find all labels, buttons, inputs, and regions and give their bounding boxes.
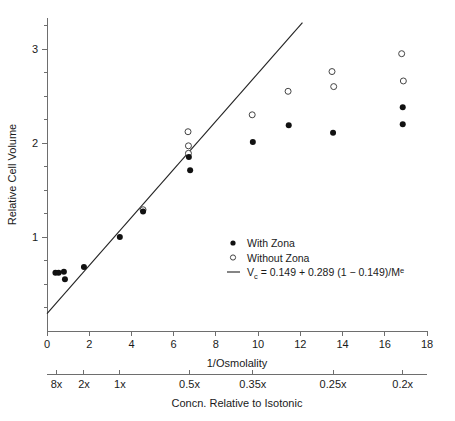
chart-legend: With Zona Without Zona Vc = 0.149 + 0.28… xyxy=(227,237,404,281)
data-point xyxy=(249,112,255,118)
x-axis-ticks xyxy=(47,331,427,336)
secondary-x-tick-label: 0.35x xyxy=(239,378,266,390)
legend-label-with-zona: With Zona xyxy=(247,237,295,249)
x-axis-tick-labels: 024681012141618 xyxy=(44,338,433,350)
data-point xyxy=(186,154,192,160)
data-point xyxy=(62,276,68,282)
secondary-x-tick-label: 8x xyxy=(51,378,63,390)
x-tick-label: 10 xyxy=(252,338,264,350)
x-tick-label: 2 xyxy=(86,338,92,350)
data-point xyxy=(185,129,191,135)
data-point xyxy=(286,122,292,128)
secondary-x-tick-label: 1x xyxy=(114,378,126,390)
y-axis-ticks xyxy=(42,26,47,308)
x-tick-label: 18 xyxy=(421,338,433,350)
data-point xyxy=(117,234,123,240)
y-axis-title: Relative Cell Volume xyxy=(6,124,18,226)
x-axis-title: 1/Osmolality xyxy=(207,357,268,369)
data-point xyxy=(61,269,67,275)
data-point xyxy=(400,104,406,110)
plot-canvas: 123 024681012141618 8x2x1x0.5x0.35x0.25x… xyxy=(0,0,455,421)
x-tick-label: 6 xyxy=(171,338,177,350)
legend-label-equation: Vc = 0.149 + 0.289 (1 − 0.149)/Me xyxy=(247,266,404,281)
data-point xyxy=(329,69,335,75)
data-point xyxy=(81,264,87,270)
data-point xyxy=(400,121,406,127)
data-point xyxy=(250,139,256,145)
data-point xyxy=(285,88,291,94)
x-tick-label: 4 xyxy=(128,338,134,350)
data-point xyxy=(187,167,193,173)
secondary-x-tick-label: 0.25x xyxy=(320,378,347,390)
legend-marker-with-zona xyxy=(230,240,235,245)
scatter-plot-figure: 123 024681012141618 8x2x1x0.5x0.35x0.25x… xyxy=(0,0,455,421)
data-point xyxy=(399,51,405,57)
x-tick-label: 12 xyxy=(294,338,306,350)
x-tick-label: 14 xyxy=(336,338,348,350)
x-tick-label: 8 xyxy=(213,338,219,350)
data-point xyxy=(185,143,191,149)
series-without-zona-points xyxy=(140,51,406,213)
secondary-x-tick-label: 2x xyxy=(78,378,90,390)
data-point xyxy=(140,209,146,215)
y-tick-label: 2 xyxy=(32,137,38,149)
secondary-x-tick-label: 0.5x xyxy=(179,378,200,390)
secondary-x-tick-label: 0.2x xyxy=(392,378,413,390)
y-tick-label: 1 xyxy=(32,231,38,243)
data-point xyxy=(331,84,337,90)
secondary-x-axis-ticks xyxy=(57,370,403,374)
data-point xyxy=(330,130,336,136)
y-axis-tick-labels: 123 xyxy=(32,43,38,243)
legend-marker-without-zona xyxy=(230,255,235,260)
legend-label-without-zona: Without Zona xyxy=(247,252,310,264)
data-point xyxy=(400,78,406,84)
series-with-zona-points xyxy=(52,104,405,282)
y-tick-label: 3 xyxy=(32,43,38,55)
data-point xyxy=(56,270,62,276)
secondary-x-axis-tick-labels: 8x2x1x0.5x0.35x0.25x0.2x xyxy=(51,378,414,390)
x-tick-label: 16 xyxy=(379,338,391,350)
x-tick-label: 0 xyxy=(44,338,50,350)
secondary-x-axis-title: Concn. Relative to Isotonic xyxy=(172,397,303,409)
